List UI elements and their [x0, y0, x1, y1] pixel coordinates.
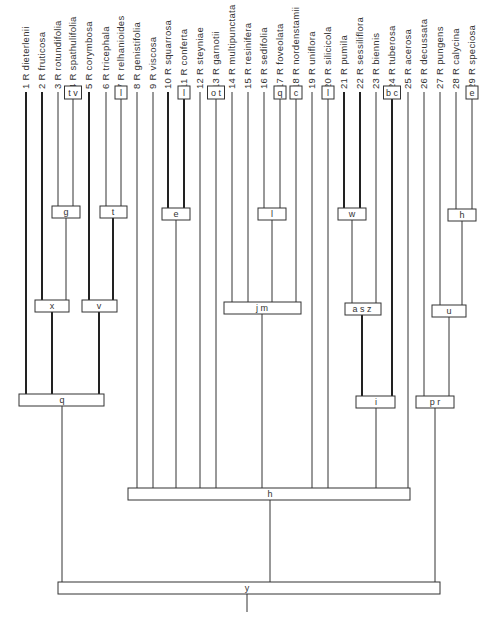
taxon-label: 10 R squarrosa	[162, 19, 173, 89]
taxon-label: 12 R steyniae	[194, 27, 205, 89]
taxon-label: 14 R multipunctata	[226, 4, 237, 89]
node-box-label: q	[59, 395, 64, 405]
taxon-label: 18 R nordenstamii	[290, 7, 301, 89]
taxon-label: 1 R dieterlenii	[20, 26, 31, 89]
cladogram: 1 R dieterlenii2 R fruticosa3 R rotundif…	[0, 0, 494, 622]
taxon-label: 26 R decussata	[418, 18, 429, 89]
node-box-label: h	[267, 489, 272, 499]
node-box-label: h	[459, 210, 464, 220]
taxon-label: 23 R biennis	[370, 33, 381, 89]
taxon-label: 13 R garnotii	[210, 31, 221, 89]
taxon-label: 7 R relhanioides	[115, 16, 126, 89]
terminal-character-boxes: t vllo tqclb ce	[65, 86, 479, 99]
taxon-label: 21 R pumila	[338, 35, 349, 89]
terminal-box-label: c	[294, 88, 299, 98]
taxon-label: 17 R foveolata	[274, 23, 285, 89]
taxon-label: 8 R genistifolia	[131, 21, 142, 89]
taxon-labels: 1 R dieterlenii2 R fruticosa3 R rotundif…	[20, 4, 477, 89]
node-box-label: g	[63, 207, 68, 217]
taxon-label: 9 R viscosa	[147, 36, 158, 89]
terminal-box-label: b c	[386, 88, 399, 98]
terminal-box-label: l	[120, 88, 122, 98]
taxon-label: 20 R silicicola	[322, 26, 333, 89]
node-box-label: v	[97, 301, 102, 311]
node-box-label: j m	[255, 303, 268, 313]
taxon-label: 4 R spathulifolia	[67, 16, 78, 89]
node-box-label: u	[446, 306, 451, 316]
taxon-label: 19 R uniflora	[306, 31, 317, 89]
taxon-label: 2 R fruticosa	[36, 31, 47, 89]
taxon-label: 5 R corymbosa	[83, 21, 94, 89]
taxon-label: 15 R resinifera	[242, 22, 253, 89]
taxon-label: 11 R conferta	[178, 28, 189, 89]
node-box-label: a s z	[352, 304, 372, 314]
node-box-label: y	[245, 583, 250, 593]
taxon-label: 3 R rotundifolia	[52, 20, 63, 89]
taxon-label: 28 R calycina	[450, 28, 461, 89]
terminal-box-label: q	[277, 88, 282, 98]
node-box-label: e	[173, 209, 178, 219]
taxon-label: 27 R pungens	[434, 26, 445, 89]
taxon-label: 29 R speciosa	[466, 24, 477, 89]
terminal-box-label: e	[469, 88, 474, 98]
branch-lines	[26, 92, 472, 612]
node-box-label: x	[50, 301, 55, 311]
node-box-label: l	[271, 209, 273, 219]
taxon-label: 25 R acerosa	[402, 28, 413, 89]
taxon-label: 6 R tricephala	[100, 26, 111, 89]
terminal-box-label: l	[327, 88, 329, 98]
terminal-box-label: l	[183, 88, 185, 98]
taxon-label: 16 R sedifolia	[258, 27, 269, 89]
taxon-label: 22 R sessiliflora	[354, 16, 365, 89]
node-box-label: i	[375, 397, 377, 407]
taxon-label: 24 R tuberosa	[386, 25, 397, 89]
terminal-box-label: o t	[211, 88, 222, 98]
node-box-label: w	[348, 209, 356, 219]
node-box-label: p r	[430, 397, 441, 407]
terminal-box-label: t v	[68, 88, 78, 98]
